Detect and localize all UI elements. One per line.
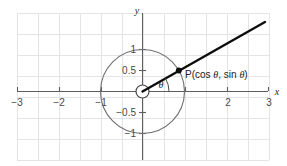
y-tick-label-neg-1: −1 (125, 128, 137, 139)
point-p-label-suffix: ) (244, 69, 247, 80)
point-p-label: P(cos θ, sin θ) (185, 69, 248, 80)
x-tick-label-3: 3 (266, 97, 272, 108)
point-p-label-mid: , sin (218, 69, 239, 80)
x-tick-label-neg2: −2 (53, 97, 65, 108)
x-tick-label-neg1: −1 (95, 97, 107, 108)
y-axis-name: y (134, 5, 140, 16)
y-tick-label-half: 0.5 (122, 65, 136, 76)
y-tick-label-1: 1 (130, 44, 136, 55)
x-tick-label-neg3: −3 (11, 97, 23, 108)
x-tick-label-2: 2 (225, 97, 231, 108)
unit-circle-figure: −3 −2 −1 2 3 1 0.5 −0.5 −1 x y θ P(cos θ… (0, 0, 287, 166)
y-tick-label-neg-half: −0.5 (116, 107, 136, 118)
point-p-marker (176, 68, 182, 74)
theta-label: θ (159, 79, 164, 90)
point-p-label-prefix: P(cos (185, 69, 213, 80)
figure-canvas: −3 −2 −1 2 3 1 0.5 −0.5 −1 x y θ P(cos θ… (0, 0, 287, 166)
x-axis-name: x (274, 86, 280, 97)
theta-arc (166, 78, 170, 91)
